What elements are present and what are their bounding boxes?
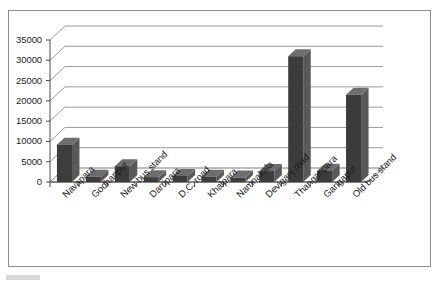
axis-lines <box>46 40 368 182</box>
y-tick-label: 15000 <box>0 115 42 126</box>
y-tick-label: 20000 <box>0 95 42 106</box>
bar-chart-plot <box>0 0 440 285</box>
gridlines-group <box>50 26 383 162</box>
y-tick-label: 30000 <box>0 54 42 65</box>
y-tick-label: 35000 <box>0 34 42 45</box>
chart-figure: 05000100001500020000250003000035000 Nava… <box>0 0 440 285</box>
y-tick-label: 5000 <box>0 156 42 167</box>
y-tick-label: 10000 <box>0 135 42 146</box>
y-tick-label: 25000 <box>0 75 42 86</box>
y-tick-label: 0 <box>0 176 42 187</box>
